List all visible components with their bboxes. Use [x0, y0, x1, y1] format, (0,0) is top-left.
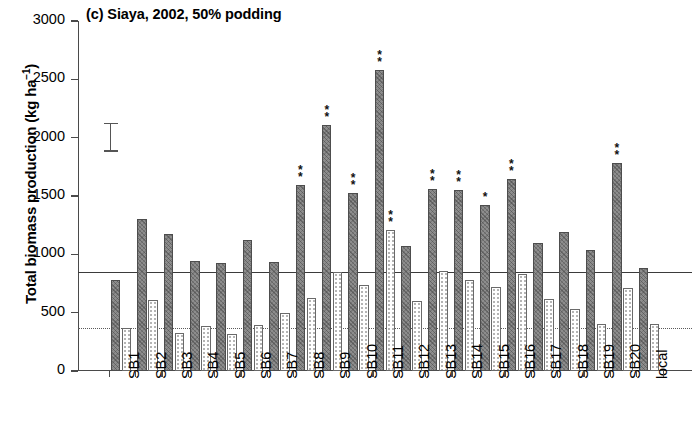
chart-figure: Total biomass production (kg ha−1) (c) S… [0, 0, 700, 434]
bar-group-SB17 [530, 21, 556, 371]
bar-group-SB18 [556, 21, 582, 371]
bar-dark-SB1 [111, 280, 121, 371]
bar-dark-SB9 [322, 125, 332, 371]
x-tick-SB6 [240, 371, 241, 377]
x-tick-SB18 [557, 371, 558, 377]
bar-group-SB7 [266, 21, 292, 371]
bar-group-SB5 [214, 21, 240, 371]
x-tick-SB5 [214, 371, 215, 377]
plot-area: 050010001500200025003000 ***************… [78, 21, 692, 371]
y-tick-label-0: 0 [8, 361, 65, 377]
x-tick-SB19 [583, 371, 584, 377]
x-tick-SB7 [267, 371, 268, 377]
x-tick-SB13 [425, 371, 426, 377]
y-tick-500 [71, 312, 78, 313]
bar-group-SB11: **** [372, 21, 398, 371]
bar-group-SB1 [108, 21, 134, 371]
significance-mark-dark-SB14: ** [451, 172, 467, 186]
significance-mark-dark-SB15: * [477, 194, 493, 201]
significance-mark-dark-SB9: ** [319, 107, 335, 121]
bar-group-SB9: ** [319, 21, 345, 371]
x-tick-SB10 [346, 371, 347, 377]
significance-mark-dark-SB16: ** [504, 161, 520, 175]
bar-group-SB10: ** [345, 21, 371, 371]
x-tick-SB16 [504, 371, 505, 377]
x-tick-SB14 [451, 371, 452, 377]
x-tick-SB15 [478, 371, 479, 377]
bar-group-SB20: ** [609, 21, 635, 371]
significance-mark-light-SB11: ** [383, 212, 399, 226]
bar-group-SB6 [240, 21, 266, 371]
y-axis-title-tail: ) [22, 64, 39, 69]
bar-group-SB3 [161, 21, 187, 371]
x-tick-local [636, 371, 637, 377]
bar-dark-SB10 [348, 193, 358, 372]
y-tick-2000 [71, 137, 78, 138]
significance-mark-dark-SB13: ** [425, 171, 441, 185]
x-tick-SB11 [372, 371, 373, 377]
x-tick-SB1 [109, 371, 110, 377]
x-tick-SB4 [188, 371, 189, 377]
bar-dark-SB20 [612, 163, 622, 371]
x-tick-SB9 [320, 371, 321, 377]
y-tick-label-2500: 2500 [8, 69, 65, 85]
bar-group-SB14: ** [451, 21, 477, 371]
y-tick-label-3000: 3000 [8, 11, 65, 27]
x-tick-SB12 [399, 371, 400, 377]
plot-title: (c) Siaya, 2002, 50% podding [86, 6, 281, 22]
bar-dark-SB2 [137, 219, 147, 371]
x-tick-SB17 [531, 371, 532, 377]
y-tick-1500 [71, 195, 78, 196]
x-tick-SB20 [610, 371, 611, 377]
y-axis-line [78, 21, 79, 371]
bar-group-SB19 [583, 21, 609, 371]
y-tick-label-500: 500 [8, 303, 65, 319]
x-tick-SB8 [293, 371, 294, 377]
bar-group-SB2 [134, 21, 160, 371]
y-tick-label-2000: 2000 [8, 128, 65, 144]
y-tick-0 [71, 370, 78, 371]
bar-dark-SB8 [296, 185, 306, 371]
x-tick-SB3 [161, 371, 162, 377]
y-tick-label-1500: 1500 [8, 186, 65, 202]
significance-mark-dark-SB20: ** [609, 145, 625, 159]
bar-group-SB13: ** [425, 21, 451, 371]
bar-group-SB15: * [477, 21, 503, 371]
y-tick-label-1000: 1000 [8, 244, 65, 260]
bar-group-SB4 [187, 21, 213, 371]
x-tick-end [663, 371, 664, 377]
y-tick-2500 [71, 79, 78, 80]
significance-mark-dark-SB8: ** [293, 167, 309, 181]
y-tick-1000 [71, 254, 78, 255]
bar-group-local [636, 21, 662, 371]
bar-dark-SB16 [507, 179, 517, 371]
bar-dark-SB3 [164, 234, 174, 371]
bar-group-SB16: ** [504, 21, 530, 371]
bar-group-SB12 [398, 21, 424, 371]
y-tick-3000 [71, 20, 78, 21]
bar-group-SB8: ** [293, 21, 319, 371]
x-tick-SB2 [135, 371, 136, 377]
significance-mark-dark-SB11: ** [372, 52, 388, 66]
significance-mark-dark-SB10: ** [345, 175, 361, 189]
